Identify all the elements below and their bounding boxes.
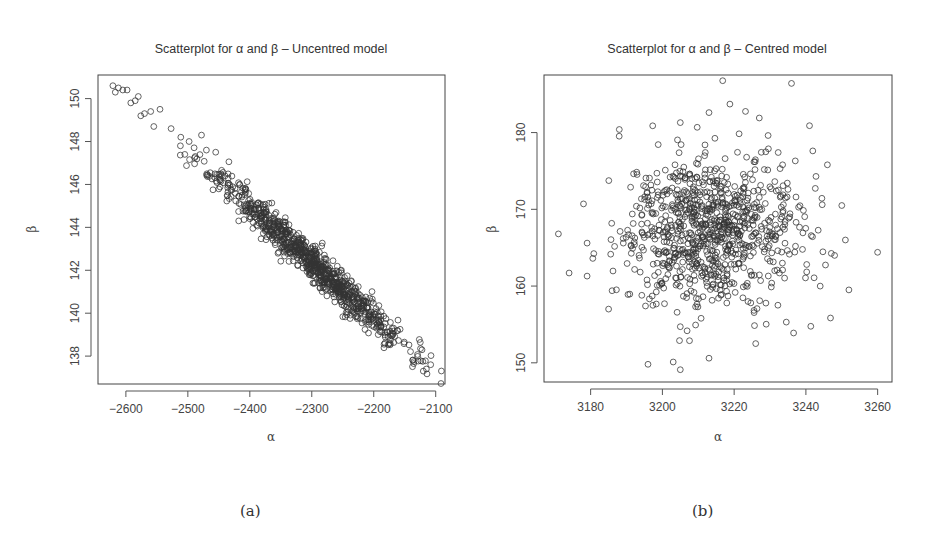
data-point xyxy=(693,322,699,328)
data-point xyxy=(756,115,762,121)
data-point xyxy=(775,150,781,156)
data-point xyxy=(706,355,712,361)
data-point xyxy=(637,205,643,211)
data-point xyxy=(617,229,623,235)
data-point xyxy=(609,288,615,294)
data-point xyxy=(744,154,750,160)
x-tick-label: 3180 xyxy=(577,400,604,414)
data-point xyxy=(655,269,661,275)
data-point xyxy=(763,321,769,327)
data-point xyxy=(698,315,704,321)
data-point xyxy=(362,327,368,333)
data-point xyxy=(702,142,708,148)
data-point xyxy=(241,217,247,223)
data-point xyxy=(653,301,659,307)
data-point xyxy=(804,262,810,268)
scatterplot-uncentred: Scatterplot for α and β – Uncentred mode… xyxy=(0,0,470,470)
x-tick-label: 3260 xyxy=(864,400,891,414)
data-point xyxy=(791,330,797,336)
data-point xyxy=(775,302,781,308)
data-point xyxy=(769,280,775,286)
data-point xyxy=(645,220,651,226)
data-point xyxy=(720,78,726,84)
data-point xyxy=(725,181,731,187)
data-point xyxy=(566,270,572,276)
data-point xyxy=(186,139,192,145)
data-point xyxy=(784,180,790,186)
data-point xyxy=(782,240,788,246)
y-axis: 138140142144146148150 xyxy=(68,88,91,366)
data-point xyxy=(810,148,816,154)
data-point xyxy=(645,361,651,367)
data-point xyxy=(719,166,725,172)
x-tick-label: −2400 xyxy=(233,402,267,416)
data-point xyxy=(758,278,764,284)
y-tick-label: 140 xyxy=(68,303,82,323)
y-tick-label: 146 xyxy=(68,174,82,194)
data-point xyxy=(677,324,683,330)
data-point xyxy=(740,295,746,301)
data-point xyxy=(616,133,622,139)
data-point xyxy=(199,132,205,138)
y-axis-label: β xyxy=(485,225,499,232)
data-point xyxy=(662,167,668,173)
x-axis-label: α xyxy=(714,430,722,444)
data-point xyxy=(724,300,730,306)
data-point xyxy=(772,179,778,185)
data-point xyxy=(672,162,678,168)
data-point xyxy=(639,221,645,227)
data-point xyxy=(659,205,665,211)
y-tick-label: 138 xyxy=(68,346,82,366)
data-point xyxy=(722,156,728,162)
x-tick-label: −2200 xyxy=(357,402,391,416)
y-tick-label: 170 xyxy=(514,199,528,219)
data-point xyxy=(584,240,590,246)
data-point xyxy=(680,259,686,265)
data-point xyxy=(110,83,116,89)
data-point xyxy=(369,289,375,295)
data-point xyxy=(678,142,684,148)
data-point xyxy=(439,368,445,374)
data-point xyxy=(759,244,765,250)
y-tick-label: 150 xyxy=(514,352,528,372)
data-point xyxy=(804,269,810,275)
data-point xyxy=(846,287,852,293)
data-point xyxy=(428,353,434,359)
data-point xyxy=(792,158,798,164)
data-point xyxy=(632,267,638,273)
data-point xyxy=(706,110,712,116)
data-point xyxy=(608,237,614,243)
data-point xyxy=(763,300,769,306)
data-point xyxy=(793,219,799,225)
data-point xyxy=(581,201,587,207)
x-axis-label: α xyxy=(267,430,275,444)
data-point xyxy=(735,149,741,155)
data-point xyxy=(201,158,207,164)
data-point xyxy=(178,143,184,149)
data-point xyxy=(624,261,630,267)
data-point xyxy=(765,133,771,139)
data-point xyxy=(793,194,799,200)
data-point xyxy=(612,244,618,250)
data-points xyxy=(556,78,881,373)
data-point xyxy=(643,303,649,309)
data-point xyxy=(634,203,640,209)
data-point xyxy=(226,159,232,165)
data-point xyxy=(732,290,738,296)
x-tick-label: −2600 xyxy=(109,402,143,416)
panel-b-centred: Scatterplot for α and β – Centred model … xyxy=(470,0,940,545)
caption-b: (b) xyxy=(692,502,713,520)
data-point xyxy=(736,131,742,137)
data-point xyxy=(792,249,798,255)
data-point xyxy=(712,135,718,141)
caption-a: (a) xyxy=(240,502,261,520)
data-point xyxy=(757,298,763,304)
data-point xyxy=(639,292,645,298)
x-tick-label: −2300 xyxy=(295,402,329,416)
data-point xyxy=(673,282,679,288)
data-point xyxy=(782,275,788,281)
data-point xyxy=(655,142,661,148)
y-tick-label: 160 xyxy=(514,276,528,296)
data-point xyxy=(800,247,806,253)
data-point xyxy=(802,214,808,220)
